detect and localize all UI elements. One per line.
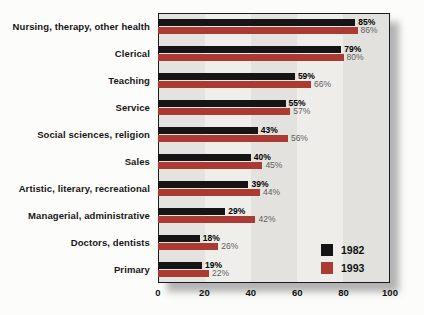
legend-entry-1982: 1982: [321, 244, 364, 256]
x-tick-20: 20: [199, 287, 210, 298]
bar-1993: [158, 135, 288, 142]
chart-row: Artistic, literary, recreational39%44%: [0, 175, 390, 202]
category-label: Doctors, dentists: [0, 237, 158, 248]
bar-1993: [158, 54, 344, 61]
legend-swatch-1993: [321, 262, 333, 274]
bar-line-1982: 43%: [158, 127, 390, 134]
bar-1993: [158, 216, 255, 223]
category-label: Sales: [0, 156, 158, 167]
category-label: Social sciences, religion: [0, 129, 158, 140]
bar-group: 43%56%: [158, 127, 390, 142]
x-tick-80: 80: [338, 287, 349, 298]
bar-group: 55%57%: [158, 100, 390, 115]
bar-1993: [158, 270, 209, 277]
x-tick-60: 60: [292, 287, 303, 298]
value-label-1993: 80%: [347, 53, 364, 62]
chart-row: Nursing, therapy, other health85%86%: [0, 13, 390, 40]
bar-line-1993: 57%: [158, 108, 390, 115]
bar-1993: [158, 27, 358, 34]
value-label-1982: 18%: [203, 234, 220, 243]
value-label-1982: 43%: [261, 126, 278, 135]
bar-group: 40%45%: [158, 154, 390, 169]
category-label: Teaching: [0, 75, 158, 86]
x-tick-100: 100: [382, 287, 398, 298]
chart-row: Social sciences, religion43%56%: [0, 121, 390, 148]
bar-1993: [158, 243, 218, 250]
bar-1982: [158, 262, 202, 269]
value-label-1993: 45%: [265, 161, 282, 170]
chart-row: Service55%57%: [0, 94, 390, 121]
category-label: Primary: [0, 264, 158, 275]
legend-swatch-1982: [321, 244, 333, 256]
x-tick-0: 0: [155, 287, 160, 298]
bar-1993: [158, 81, 311, 88]
bar-1982: [158, 181, 248, 188]
bar-line-1993: 86%: [158, 27, 390, 34]
bar-1982: [158, 73, 295, 80]
bar-1982: [158, 100, 286, 107]
value-label-1993: 86%: [361, 26, 378, 35]
category-label: Managerial, administrative: [0, 210, 158, 221]
x-tick-40: 40: [246, 287, 257, 298]
bar-line-1993: 56%: [158, 135, 390, 142]
bar-line-1982: 55%: [158, 100, 390, 107]
legend-label-1993: 1993: [341, 262, 364, 274]
x-axis: 020406080100: [158, 287, 390, 301]
value-label-1993: 56%: [291, 134, 308, 143]
chart-row: Clerical79%80%: [0, 40, 390, 67]
bar-1982: [158, 154, 251, 161]
value-label-1993: 57%: [293, 107, 310, 116]
bar-1982: [158, 19, 355, 26]
value-label-1982: 59%: [298, 72, 315, 81]
bar-1993: [158, 189, 260, 196]
bar-group: 59%66%: [158, 73, 390, 88]
chart-row: Sales40%45%: [0, 148, 390, 175]
bar-line-1993: 45%: [158, 162, 390, 169]
value-label-1993: 22%: [212, 269, 229, 278]
bar-group: 39%44%: [158, 181, 390, 196]
legend-entry-1993: 1993: [321, 262, 364, 274]
bar-line-1982: 59%: [158, 73, 390, 80]
legend-label-1982: 1982: [341, 244, 364, 256]
bar-group: 29%42%: [158, 208, 390, 223]
chart-row: Managerial, administrative29%42%: [0, 202, 390, 229]
bar-line-1982: 18%: [158, 235, 390, 242]
chart-row: Teaching59%66%: [0, 67, 390, 94]
bar-group: 85%86%: [158, 19, 390, 34]
bar-group: 79%80%: [158, 46, 390, 61]
bar-1982: [158, 208, 225, 215]
value-label-1993: 44%: [263, 188, 280, 197]
value-label-1993: 26%: [221, 242, 238, 251]
bar-line-1982: 85%: [158, 19, 390, 26]
bar-1982: [158, 46, 341, 53]
category-label: Service: [0, 102, 158, 113]
value-label-1993: 66%: [314, 80, 331, 89]
value-label-1982: 29%: [228, 207, 245, 216]
bar-line-1993: 42%: [158, 216, 390, 223]
rows: Nursing, therapy, other health85%86%Cler…: [0, 13, 390, 283]
bar-line-1993: 66%: [158, 81, 390, 88]
grouped-bar-chart: Nursing, therapy, other health85%86%Cler…: [0, 0, 424, 315]
category-label: Clerical: [0, 48, 158, 59]
bar-1993: [158, 108, 290, 115]
category-label: Artistic, literary, recreational: [0, 183, 158, 194]
bar-1993: [158, 162, 262, 169]
bar-1982: [158, 235, 200, 242]
bar-line-1993: 44%: [158, 189, 390, 196]
category-label: Nursing, therapy, other health: [0, 21, 158, 32]
bar-line-1993: 80%: [158, 54, 390, 61]
legend: 19821993: [321, 244, 364, 274]
value-label-1993: 42%: [258, 215, 275, 224]
bar-1982: [158, 127, 258, 134]
